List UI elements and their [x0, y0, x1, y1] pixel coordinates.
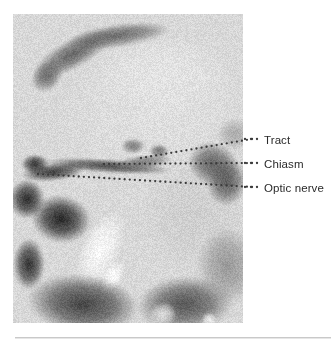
- mri-sagittal-image: [13, 14, 243, 323]
- leader-dot: [246, 186, 248, 188]
- callout-label-tract: Tract: [264, 134, 290, 146]
- leader-dot: [251, 138, 253, 140]
- leader-dot: [250, 186, 252, 188]
- leader-dot: [251, 186, 253, 188]
- leader-dot: [244, 162, 246, 164]
- leader-dot: [244, 186, 246, 188]
- figure-root: Tract Chiasm Optic nerve: [0, 0, 331, 344]
- leader-dot: [256, 186, 258, 188]
- leader-dot: [250, 138, 252, 140]
- leader-dot: [246, 139, 248, 141]
- callout-label-chiasm: Chiasm: [264, 158, 304, 170]
- leader-dot: [256, 138, 258, 140]
- mri-scan-panel: [13, 14, 243, 323]
- leader-dot: [250, 162, 252, 164]
- callout-label-optic-nerve: Optic nerve: [264, 182, 324, 194]
- leader-dot: [251, 162, 253, 164]
- leader-dot: [244, 138, 246, 140]
- bottom-divider-rule-shadow: [15, 338, 331, 339]
- leader-dot: [246, 162, 248, 164]
- leader-dot: [256, 162, 258, 164]
